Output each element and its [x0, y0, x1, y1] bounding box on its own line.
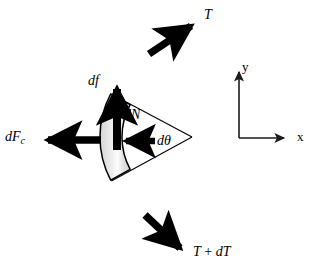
arrow-tension-bottom — [145, 215, 180, 248]
label-friction-force: df — [88, 74, 99, 88]
label-tension-bottom: T + dT — [193, 245, 231, 259]
label-centrifugal-force: dFc — [5, 130, 25, 146]
label-axis-x: x — [297, 130, 304, 143]
label-normal-force: dN — [124, 108, 140, 122]
arrow-tension-top — [149, 26, 191, 54]
label-centrifugal-F: F — [12, 129, 21, 144]
label-axis-y: y — [242, 60, 249, 73]
label-tension-bottom-dT: dT — [216, 244, 231, 259]
belt-friction-diagram: T T + dT dFc df dN dθ y x — [0, 0, 318, 279]
label-centrifugal-d: d — [5, 129, 12, 144]
label-centrifugal-subscript: c — [21, 135, 25, 146]
label-tension-bottom-T: T — [193, 244, 201, 259]
label-tension-bottom-plus: + — [201, 244, 216, 259]
label-angle-increment: dθ — [157, 134, 171, 148]
label-tension-top: T — [204, 8, 212, 22]
